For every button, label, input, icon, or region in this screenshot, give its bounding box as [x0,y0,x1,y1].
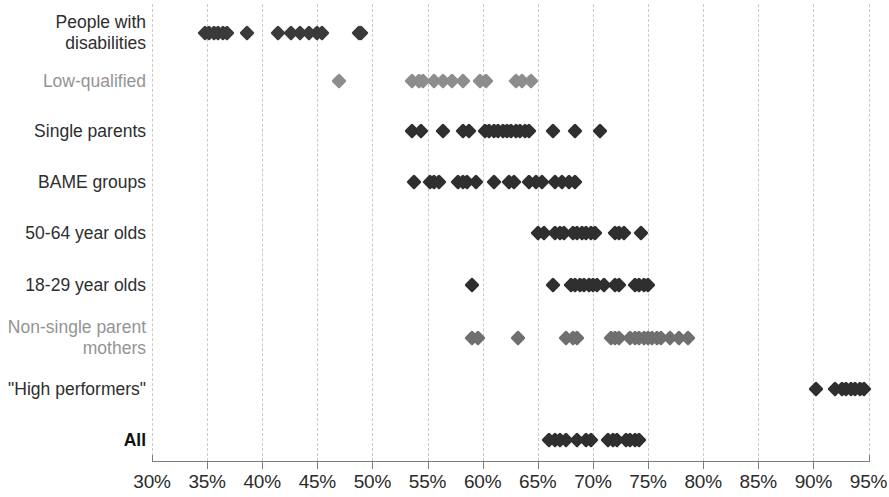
x-axis-tick-label: 65% [519,471,556,493]
x-axis-tick [593,461,594,469]
category-label: Non-single parent mothers [8,317,146,359]
gridline [758,4,759,461]
x-axis-tick [428,461,429,469]
category-label: BAME groups [38,172,146,193]
x-axis-tick [207,461,208,469]
x-axis-tick [262,461,263,469]
category-label: 18-29 year olds [25,275,146,296]
category-label: Single parents [34,121,146,142]
data-point [523,73,539,89]
data-point [413,123,429,139]
x-axis-tick-label: 35% [188,471,225,493]
x-axis-tick [648,461,649,469]
x-axis-tick-label: 90% [795,471,832,493]
x-axis-tick-label: 55% [409,471,446,493]
data-point [634,225,650,241]
category-label: 50-64 year olds [25,223,146,244]
category-label: Low-qualified [43,71,146,92]
data-point [808,381,824,397]
dot-plot-chart: People with disabilitiesLow-qualifiedSin… [0,0,889,497]
data-point [545,123,561,139]
category-label: "High performers" [8,379,146,400]
data-point [568,123,584,139]
gridline [703,4,704,461]
data-point [468,174,484,190]
x-axis-tick [372,461,373,469]
data-point [545,277,561,293]
category-label: All [124,430,146,451]
data-point [407,174,423,190]
gridline [317,4,318,461]
gridline [262,4,263,461]
gridline [152,4,153,461]
data-point [592,123,608,139]
data-point [486,174,502,190]
x-axis-tick [538,461,539,469]
x-axis-tick [869,455,870,462]
x-axis-tick [483,461,484,469]
x-axis-tick-label: 85% [740,471,777,493]
x-axis-tick [152,455,153,462]
gridline [869,4,870,461]
data-point [510,330,526,346]
data-point [455,73,471,89]
x-axis-line [152,461,869,462]
gridline [372,4,373,461]
x-axis-tick-label: 70% [574,471,611,493]
x-axis-tick-label: 30% [133,471,170,493]
gridline [428,4,429,461]
x-axis-tick-label: 80% [684,471,721,493]
data-point [332,73,348,89]
data-point [464,277,480,293]
x-axis-tick-label: 75% [629,471,666,493]
x-axis-tick [813,461,814,469]
x-axis-tick [758,461,759,469]
data-point [239,25,255,41]
x-axis-tick-label: 95% [850,471,887,493]
x-axis-tick-label: 60% [464,471,501,493]
data-point [435,123,451,139]
gridline [207,4,208,461]
x-axis-tick-label: 40% [244,471,281,493]
x-axis-tick-label: 50% [354,471,391,493]
x-axis-tick-label: 45% [299,471,336,493]
x-axis-tick [317,461,318,469]
plot-area: People with disabilitiesLow-qualifiedSin… [0,0,889,497]
gridline [483,4,484,461]
category-label: People with disabilities [56,12,146,54]
x-axis-tick [703,461,704,469]
